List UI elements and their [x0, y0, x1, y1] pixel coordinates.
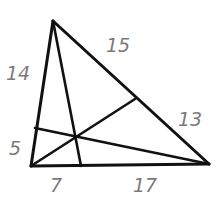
base-side [31, 164, 209, 166]
label-base-left: 7 [50, 174, 62, 196]
left-side [31, 21, 53, 166]
triangle-diagram: 14 5 15 13 7 17 [0, 0, 222, 200]
label-right-upper: 15 [106, 34, 130, 56]
cevian-bottom-left-to-right-side [31, 99, 135, 166]
label-left-lower: 5 [9, 137, 21, 159]
label-right-lower: 13 [178, 108, 202, 130]
label-base-right: 17 [133, 174, 157, 196]
label-left-upper: 14 [6, 62, 30, 84]
